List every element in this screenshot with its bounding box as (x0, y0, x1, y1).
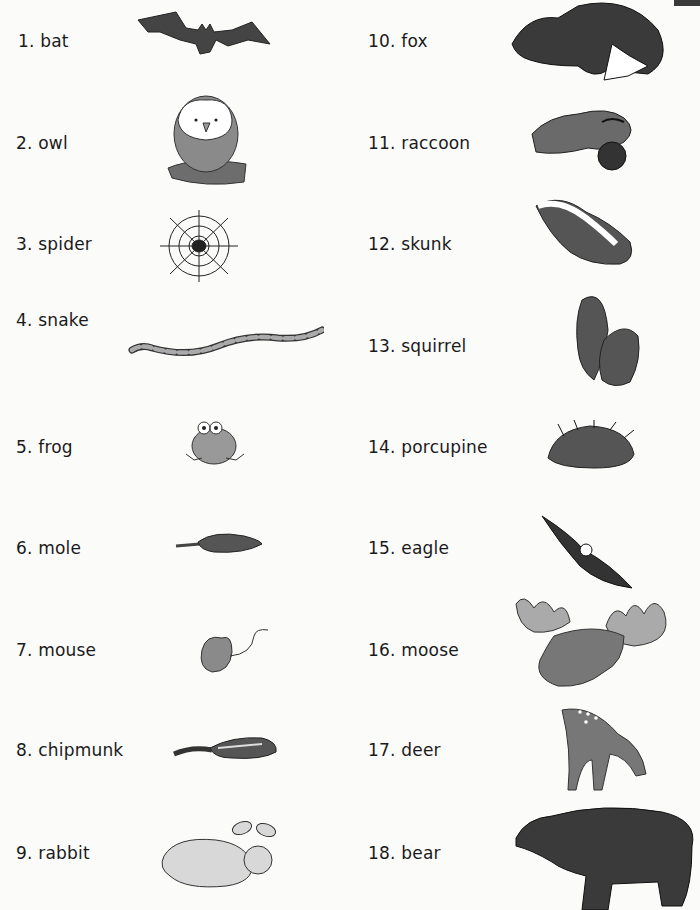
label-spider: 3. spider (16, 234, 92, 254)
label-squirrel: 13. squirrel (368, 336, 466, 356)
label-owl: 2. owl (16, 133, 68, 153)
label-fox: 10. fox (368, 31, 428, 51)
owl-icon (166, 90, 248, 186)
skunk-icon (530, 192, 640, 276)
label-moose: 16. moose (368, 640, 459, 660)
raccoon-icon (528, 100, 640, 172)
squirrel-icon (574, 290, 644, 400)
snake-icon (128, 326, 324, 358)
label-chipmunk: 8. chipmunk (16, 740, 123, 760)
bear-icon (512, 806, 700, 910)
moose-icon (514, 592, 674, 692)
label-bear: 18. bear (368, 843, 441, 863)
eagle-icon (540, 514, 636, 594)
label-bat: 1. bat (18, 31, 69, 51)
label-rabbit: 9. rabbit (16, 843, 90, 863)
mouse-icon (192, 626, 272, 676)
label-mole: 6. mole (16, 538, 81, 558)
frog-icon (182, 418, 248, 468)
label-frog: 5. frog (16, 437, 73, 457)
rabbit-icon (156, 816, 286, 892)
porcupine-icon (544, 420, 638, 472)
chipmunk-icon (172, 730, 282, 766)
label-raccoon: 11. raccoon (368, 133, 470, 153)
bat-icon (136, 10, 272, 56)
deer-icon (552, 700, 652, 796)
label-mouse: 7. mouse (16, 640, 96, 660)
label-porcupine: 14. porcupine (368, 437, 488, 457)
mole-icon (174, 528, 264, 556)
label-eagle: 15. eagle (368, 538, 449, 558)
label-snake: 4. snake (16, 310, 89, 330)
spider-icon (158, 208, 240, 284)
label-skunk: 12. skunk (368, 234, 452, 254)
label-deer: 17. deer (368, 740, 441, 760)
fox-icon (508, 0, 692, 82)
